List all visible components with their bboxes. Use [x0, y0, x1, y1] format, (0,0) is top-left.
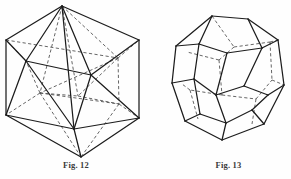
icosahedron-hull-fill: [6, 6, 139, 157]
dodecahedron-drawing: [160, 0, 291, 179]
figure-plate: Fig. 12: [0, 0, 291, 179]
caption-fig-13: Fig. 13: [163, 160, 291, 170]
figure-dodecahedron: Fig. 13: [160, 0, 291, 179]
icosahedron-drawing: [0, 0, 160, 179]
caption-fig-12: Fig. 12: [0, 160, 156, 170]
figure-icosahedron: Fig. 12: [0, 0, 160, 179]
